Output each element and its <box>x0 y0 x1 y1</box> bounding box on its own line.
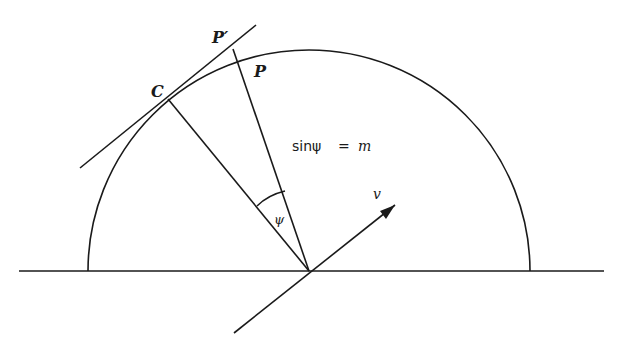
velocity-line <box>234 205 395 333</box>
equation-rhs: m <box>358 138 371 154</box>
label-psi: ψ <box>274 212 285 227</box>
angle-arc <box>257 191 285 206</box>
label-p-prime: P′ <box>211 28 229 47</box>
equation-lhs: sinψ <box>292 138 321 154</box>
label-c: C <box>151 82 164 101</box>
diagram-canvas: P′ P C ψ v sinψ = m <box>0 0 632 349</box>
arrowhead-icon <box>380 205 395 219</box>
label-v: v <box>373 186 381 202</box>
equation-equals: = <box>338 138 350 154</box>
label-p: P <box>253 62 267 81</box>
tangent-line <box>80 25 256 168</box>
radius-to-c <box>168 99 309 271</box>
line-to-p-prime <box>233 49 309 271</box>
